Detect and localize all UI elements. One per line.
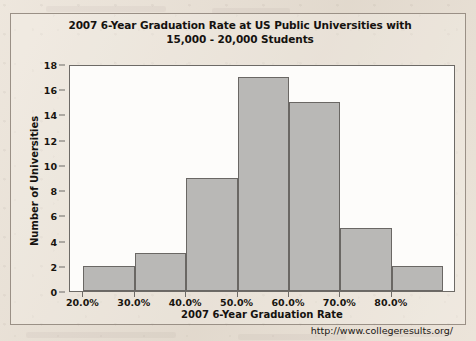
y-tick-label: 0 <box>50 287 57 298</box>
y-tick-label: 16 <box>44 85 57 96</box>
y-tick-label: 18 <box>44 60 57 71</box>
x-tick-label: 60.0% <box>271 297 304 308</box>
y-tick-label: 4 <box>50 236 57 247</box>
x-tick-label: 70.0% <box>323 297 356 308</box>
y-tick-mark <box>59 115 65 116</box>
y-tick-label: 8 <box>50 186 57 197</box>
x-tick-label: 20.0% <box>66 297 99 308</box>
y-tick-mark <box>59 140 65 141</box>
histogram-bar <box>238 77 289 291</box>
plot-area <box>69 65 455 292</box>
y-tick-mark <box>59 241 65 242</box>
histogram-bar <box>135 253 186 291</box>
histogram-bar <box>186 178 237 292</box>
chart-figure-card: 2007 6-Year Graduation Rate at US Public… <box>10 13 466 325</box>
y-tick-mark <box>59 90 65 91</box>
y-tick-label: 12 <box>44 135 57 146</box>
y-tick-mark <box>59 165 65 166</box>
histogram-bar <box>340 228 391 291</box>
y-axis-ticks: 024681012141618 <box>11 14 69 293</box>
histogram-bars <box>70 66 454 291</box>
x-tick-label: 30.0% <box>117 297 150 308</box>
y-tick-label: 14 <box>44 110 57 121</box>
chart-title-line-2: 15,000 - 20,000 Students <box>35 33 445 47</box>
y-tick-mark <box>59 191 65 192</box>
x-tick-label: 50.0% <box>220 297 253 308</box>
y-tick-label: 10 <box>44 160 57 171</box>
y-tick-mark <box>59 65 65 66</box>
x-tick-label: 80.0% <box>374 297 407 308</box>
y-tick-label: 2 <box>50 261 57 272</box>
histogram-bar <box>392 266 443 291</box>
y-tick-mark <box>59 292 65 293</box>
histogram-bar <box>289 102 340 291</box>
y-tick-label: 6 <box>50 211 57 222</box>
x-axis-title: 2007 6-Year Graduation Rate <box>69 309 455 320</box>
source-url[interactable]: http://www.collegeresults.org/ <box>311 325 453 336</box>
chart-title-line-1: 2007 6-Year Graduation Rate at US Public… <box>68 19 411 31</box>
histogram-bar <box>83 266 134 291</box>
y-tick-mark <box>59 216 65 217</box>
x-tick-label: 40.0% <box>169 297 202 308</box>
chart-title: 2007 6-Year Graduation Rate at US Public… <box>35 19 445 46</box>
y-tick-mark <box>59 266 65 267</box>
